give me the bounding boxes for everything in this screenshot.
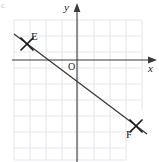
x-axis [12, 57, 157, 64]
coordinate-plane-figure: c [0, 0, 159, 162]
origin-label: O [68, 62, 75, 72]
y-axis-label: y [64, 2, 69, 13]
x-axis-label: x [148, 63, 153, 74]
point-label-e: E [31, 31, 38, 42]
graph-canvas [0, 0, 159, 162]
point-label-f: F [126, 129, 132, 140]
y-axis-arrow-icon [74, 3, 81, 12]
